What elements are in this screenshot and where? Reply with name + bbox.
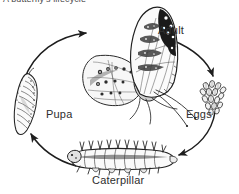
pupa-illustration <box>14 68 37 135</box>
diagram-artwork <box>0 0 239 194</box>
lifecycle-diagram: A butterfly's lifecycle <box>0 0 239 194</box>
label-adult: Adult <box>158 24 184 36</box>
caterpillar-illustration <box>68 140 178 175</box>
arrow-caterpillar-to-pupa <box>31 134 76 166</box>
label-caterpillar: Caterpillar <box>92 174 144 186</box>
label-pupa: Pupa <box>46 108 73 120</box>
arrow-pupa-to-adult <box>24 33 86 80</box>
label-eggs: Eggs <box>186 108 212 120</box>
